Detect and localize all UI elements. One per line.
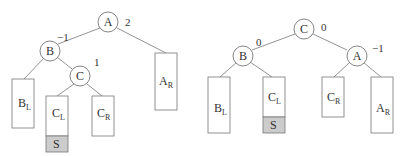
edge-b-cl	[250, 62, 272, 77]
left-tree: BL CL S CR AR A 2 B −1	[12, 12, 177, 152]
subtree-ar-left: AR	[155, 53, 177, 110]
edge-c-cr	[87, 84, 102, 96]
subtree-cl-right: CL	[263, 77, 285, 117]
inserted-node-s-right: S	[263, 117, 285, 133]
balance-factor: 0	[321, 21, 327, 33]
balance-factor: 1	[94, 56, 100, 68]
svg-text:B: B	[239, 49, 247, 63]
svg-text:B: B	[46, 44, 54, 58]
edge-a-ar	[363, 62, 381, 77]
svg-text:C: C	[300, 22, 308, 36]
node-a-right: A −1	[347, 42, 384, 66]
svg-text:S: S	[53, 137, 60, 151]
node-b-right: B 0	[233, 36, 262, 66]
balance-factor: −1	[57, 31, 69, 43]
node-c-right: C 0	[294, 19, 327, 39]
node-a-left: A 2	[98, 12, 131, 32]
right-tree: BL CL S CR AR C 0 B 0	[208, 19, 393, 133]
subtree-cl-left: CL	[46, 96, 68, 136]
svg-text:S: S	[270, 118, 277, 132]
balance-factor: −1	[372, 42, 384, 54]
edge-b-c	[57, 57, 72, 69]
node-c-left: C 1	[70, 56, 100, 86]
balance-factor: 2	[125, 16, 131, 28]
edge-a-cr	[334, 62, 350, 77]
edge-a-ar	[117, 28, 166, 53]
subtree-bl-left: BL	[12, 79, 34, 128]
edge-c-cl	[57, 84, 74, 96]
subtree-ar-right: AR	[371, 77, 393, 133]
subtree-bl-right: BL	[208, 77, 230, 133]
svg-text:C: C	[76, 69, 84, 83]
edge-b-bl	[220, 62, 237, 77]
edge-b-bl	[24, 58, 44, 79]
balance-factor: 0	[256, 36, 262, 48]
edge-c-a	[313, 34, 347, 50]
inserted-node-s-left: S	[46, 136, 68, 152]
node-b-left: B −1	[40, 31, 69, 61]
subtree-cr-right: CR	[322, 77, 344, 117]
svg-text:A: A	[353, 49, 362, 63]
svg-text:A: A	[104, 15, 113, 29]
subtree-cr-left: CR	[92, 96, 114, 136]
